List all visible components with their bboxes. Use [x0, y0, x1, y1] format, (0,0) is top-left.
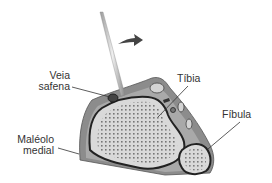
tendon [186, 119, 192, 129]
label-medial: medial [10, 145, 54, 156]
saphenous-vein [108, 94, 118, 102]
needle [100, 12, 125, 96]
tendon [178, 102, 184, 112]
diagram-canvas: Veia safena Tíbia Fíbula Maléolo medial [0, 0, 272, 183]
label-tibia: Tíbia [177, 73, 200, 84]
vessel [171, 108, 176, 113]
tendon [150, 83, 164, 93]
label-fibula: Fíbula [222, 109, 251, 120]
label-safena: safena [36, 81, 70, 92]
label-veia-safena: Veia safena [36, 70, 70, 92]
arrow [118, 34, 143, 46]
label-maleolo-medial: Maléolo medial [10, 134, 54, 156]
